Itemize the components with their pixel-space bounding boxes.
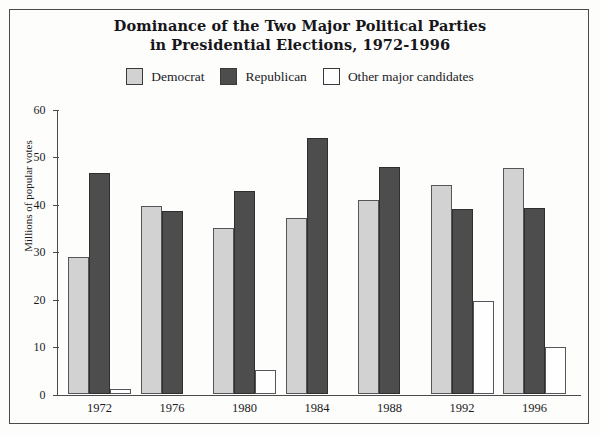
y-axis-tick-label: 0 xyxy=(20,389,46,401)
y-axis-tick-mark xyxy=(53,300,59,301)
x-axis-tick-label: 1984 xyxy=(282,401,352,416)
x-axis-tick-label: 1976 xyxy=(137,401,207,416)
bar-other-1996 xyxy=(545,347,566,394)
bar-other-1980 xyxy=(255,370,276,394)
bar-republican-1984 xyxy=(307,138,328,395)
y-axis-tick-label: 30 xyxy=(20,246,46,258)
bar-democrat-1976 xyxy=(141,206,162,395)
y-axis-tick-label: 10 xyxy=(20,341,46,353)
plot-area: Millions of popular votes 01020304050601… xyxy=(0,0,600,435)
y-axis-tick-mark xyxy=(53,395,59,396)
y-axis-tick-label: 20 xyxy=(20,294,46,306)
y-axis-tick-mark xyxy=(53,205,59,206)
bar-republican-1980 xyxy=(234,191,255,395)
y-axis-tick-label: 50 xyxy=(20,151,46,163)
bar-democrat-1996 xyxy=(503,168,524,395)
bar-democrat-1988 xyxy=(358,200,379,394)
x-axis-tick-label: 1988 xyxy=(355,401,425,416)
bar-republican-1976 xyxy=(162,211,183,395)
bar-democrat-1980 xyxy=(213,228,234,395)
bar-republican-1992 xyxy=(452,209,473,394)
bar-republican-1996 xyxy=(524,208,545,395)
bar-democrat-1972 xyxy=(68,257,89,395)
y-axis-tick-mark xyxy=(53,347,59,348)
y-axis-tick-mark xyxy=(53,252,59,253)
y-axis-tick-label: 40 xyxy=(20,199,46,211)
bar-republican-1972 xyxy=(89,173,110,394)
bar-other-1972 xyxy=(110,389,131,394)
y-axis-label: Millions of popular votes xyxy=(22,96,34,296)
y-axis-tick-mark xyxy=(53,157,59,158)
bar-other-1992 xyxy=(473,301,494,394)
bar-democrat-1992 xyxy=(431,185,452,395)
x-axis-line xyxy=(57,395,581,396)
bar-democrat-1984 xyxy=(286,218,307,394)
x-axis-tick-label: 1972 xyxy=(65,401,135,416)
y-axis-tick-mark xyxy=(53,110,59,111)
bar-republican-1988 xyxy=(379,167,400,395)
y-axis-tick-label: 60 xyxy=(20,104,46,116)
chart-page: Dominance of the Two Major Political Par… xyxy=(0,0,600,435)
x-axis-tick-label: 1996 xyxy=(500,401,570,416)
x-axis-tick-label: 1980 xyxy=(210,401,280,416)
x-axis-tick-label: 1992 xyxy=(427,401,497,416)
